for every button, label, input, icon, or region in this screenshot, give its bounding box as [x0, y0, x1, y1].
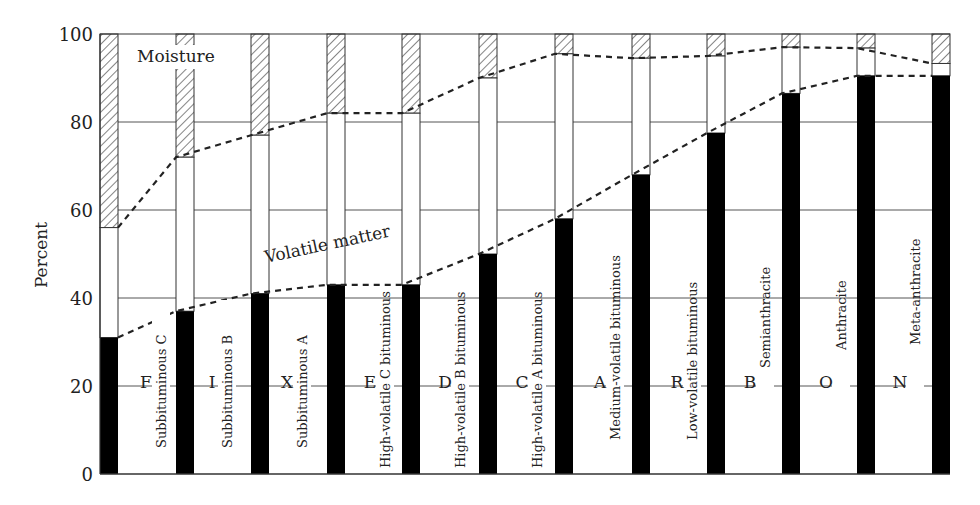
fixed-carbon-segment	[176, 311, 194, 474]
fixed-carbon-segment	[100, 338, 118, 474]
moisture-segment	[555, 34, 573, 54]
volatile-segment	[782, 47, 800, 93]
gap-letter: D	[438, 372, 452, 392]
coal-rank-chart: 020406080100 Subbituminous CFSubbitumino…	[0, 0, 980, 505]
category-label: Medium-volatile bituminous	[608, 255, 623, 440]
gap-letter: X	[281, 372, 294, 392]
category-label: Subbituminous A	[295, 334, 310, 448]
moisture-segment	[932, 34, 950, 63]
moisture-annotation: Moisture	[137, 46, 215, 66]
volatile-segment	[479, 78, 497, 254]
gap-letter: C	[515, 372, 528, 392]
moisture-segment	[632, 34, 650, 58]
fixed-carbon-segment	[782, 93, 800, 474]
fixed-carbon-segment	[327, 285, 345, 474]
volatile-segment	[327, 113, 345, 285]
volatile-segment	[402, 113, 420, 285]
moisture-segment	[707, 34, 725, 56]
gap-letter: O	[819, 372, 833, 392]
category-label: Anthracite	[834, 280, 849, 351]
moisture-segment	[479, 34, 497, 78]
gap-letter: A	[593, 372, 607, 392]
moisture-segment	[327, 34, 345, 113]
moisture-segment	[782, 34, 800, 47]
volatile-segment	[176, 157, 194, 311]
category-label: Meta-anthracite	[908, 238, 923, 345]
moisture-segment	[857, 34, 875, 48]
gap-letter: I	[209, 372, 216, 392]
moisture-segment	[100, 34, 118, 228]
y-tick-label: 80	[70, 112, 93, 133]
volatile-segment	[632, 58, 650, 175]
volatile-segment	[707, 56, 725, 133]
category-label: Semianthracite	[758, 267, 773, 368]
volatile-segment	[100, 228, 118, 338]
y-tick-label: 60	[70, 200, 93, 221]
category-label: Low-volatile bituminous	[685, 282, 700, 440]
volatile-segment	[555, 54, 573, 219]
category-label: High-volatile A bituminous	[530, 292, 545, 468]
fixed-carbon-segment	[932, 76, 950, 474]
y-axis: 020406080100	[59, 24, 93, 485]
y-tick-label: 0	[82, 464, 93, 485]
volatile-line	[118, 47, 932, 227]
y-tick-label: 40	[70, 288, 93, 309]
fixed-carbon-segment	[479, 254, 497, 474]
gap-letter: N	[893, 372, 908, 392]
y-axis-label: Percent	[31, 222, 51, 288]
fixed-carbon-segment	[857, 76, 875, 474]
y-tick-label: 100	[59, 24, 93, 45]
y-tick-label: 20	[70, 376, 93, 397]
fixed-carbon-segment	[402, 285, 420, 474]
category-label: High-volatile B bituminous	[453, 291, 468, 468]
moisture-segment	[251, 34, 269, 135]
fixed-carbon-segment	[707, 133, 725, 474]
gap-letter: R	[671, 372, 685, 392]
fixed-carbon-segment	[632, 175, 650, 474]
volatile-segment	[251, 135, 269, 293]
fixed-carbon-segment	[251, 294, 269, 474]
trend-lines	[118, 47, 932, 337]
gap-letter: F	[140, 372, 152, 392]
gap-letter: B	[744, 372, 757, 392]
category-label: Subbituminous C	[154, 334, 169, 448]
gap-letter: E	[364, 372, 376, 392]
moisture-segment	[402, 34, 420, 113]
volatile-segment	[932, 63, 950, 75]
category-label: High-volatile C bituminous	[378, 291, 393, 468]
fixed-carbon-segment	[555, 219, 573, 474]
category-label: Subbituminous B	[220, 335, 235, 448]
